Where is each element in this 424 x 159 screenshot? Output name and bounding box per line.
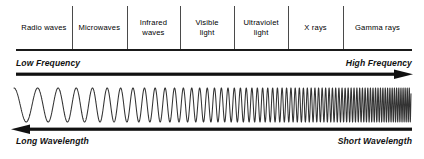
spectrum-band-5: Ultraviolet light xyxy=(234,6,288,50)
electromagnetic-spectrum-diagram: Radio wavesMicrowavesInfrared wavesVisib… xyxy=(0,0,424,159)
spectrum-band-1: Radio waves xyxy=(16,6,72,50)
spectrum-band-divider xyxy=(72,6,73,50)
short-wavelength-label: Short Wavelength xyxy=(338,136,412,146)
waveform-graphic xyxy=(0,84,424,126)
spectrum-band-divider xyxy=(180,6,181,50)
spectrum-band-label: X rays xyxy=(304,23,326,33)
spectrum-band-divider xyxy=(234,6,235,50)
chirp-waveform xyxy=(0,84,424,126)
spectrum-band-label: Infrared waves xyxy=(140,18,167,37)
spectrum-band-6: X rays xyxy=(288,6,343,50)
spectrum-band-divider xyxy=(288,6,289,50)
spectrum-band-3: Infrared waves xyxy=(127,6,180,50)
spectrum-band-2: Microwaves xyxy=(72,6,127,50)
low-frequency-label: Low Frequency xyxy=(16,58,80,68)
high-frequency-label: High Frequency xyxy=(346,58,412,68)
long-wavelength-label: Long Wavelength xyxy=(16,136,89,146)
spectrum-band-label: Gamma rays xyxy=(355,23,400,33)
frequency-axis: Low Frequency High Frequency xyxy=(0,58,424,80)
wavelength-axis: Long Wavelength Short Wavelength xyxy=(0,124,424,146)
spectrum-band-label: Visible light xyxy=(195,18,218,37)
spectrum-band-label: Ultraviolet light xyxy=(243,18,278,37)
spectrum-band-4: Visible light xyxy=(180,6,234,50)
arrow-left-icon xyxy=(0,124,424,135)
spectrum-band-label: Radio waves xyxy=(21,23,66,33)
spectrum-band-label: Microwaves xyxy=(79,23,121,33)
spectrum-band-divider xyxy=(343,6,344,50)
spectrum-baseline-rule xyxy=(16,49,412,51)
arrow-right-icon xyxy=(0,69,424,80)
spectrum-band-divider xyxy=(127,6,128,50)
spectrum-band-7: Gamma rays xyxy=(343,6,412,50)
spectrum-band-strip: Radio wavesMicrowavesInfrared wavesVisib… xyxy=(16,6,412,50)
